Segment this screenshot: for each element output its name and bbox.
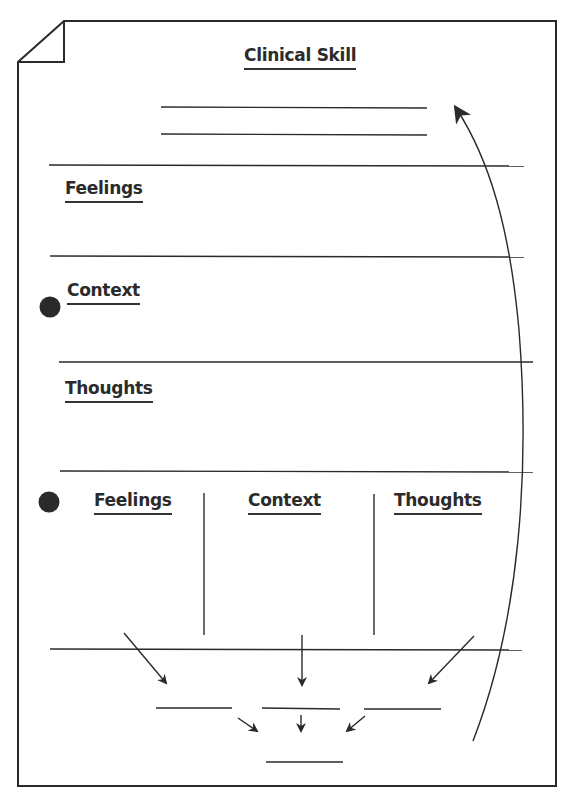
divider-1 [49, 165, 524, 166]
blank-context [262, 708, 340, 709]
section-label-feelings: Feelings [65, 178, 143, 203]
section-label-thoughts: Thoughts [65, 378, 153, 403]
title-blank-line-1 [161, 107, 427, 108]
divider-4 [60, 471, 533, 472]
feedback-arrow-icon [456, 108, 523, 741]
column-label-feelings: Feelings [94, 490, 172, 515]
arrow-thoughts-down [429, 636, 474, 683]
arrow-merge-right [347, 716, 365, 731]
page-title: Clinical Skill [244, 45, 356, 70]
divider-5 [50, 649, 522, 650]
page-border [18, 21, 556, 786]
column-label-context: Context [248, 490, 321, 515]
bullet-icon-columns [39, 492, 60, 513]
arrow-feelings-down [124, 633, 166, 683]
column-label-thoughts: Thoughts [394, 490, 482, 515]
bullet-icon-context [40, 297, 61, 318]
divider-2 [50, 256, 524, 257]
arrow-merge-left [238, 718, 257, 731]
section-label-context: Context [67, 280, 140, 305]
title-blank-line-2 [161, 134, 427, 135]
